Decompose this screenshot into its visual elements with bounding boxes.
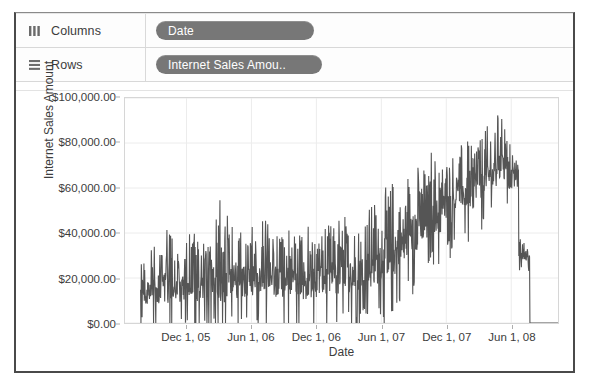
y-axis-tick-label: $60,000.00 xyxy=(58,182,116,194)
y-axis-tick-mark xyxy=(116,142,120,143)
y-axis-tick-label: $80,000.00 xyxy=(58,136,116,148)
y-axis-tick-mark xyxy=(116,97,120,98)
columns-bars-icon xyxy=(28,25,42,37)
x-axis-tick-label: Jun 1, 08 xyxy=(488,331,535,343)
rows-shelf-label-cell: Rows xyxy=(16,48,146,81)
series-line-internet-sales-amount xyxy=(141,115,558,323)
line-chart-svg xyxy=(125,98,558,323)
pill-internet-sales-amount[interactable]: Internet Sales Amou.. xyxy=(156,55,322,74)
y-axis-tick-mark xyxy=(116,233,120,234)
columns-shelf-dropzone[interactable]: Date xyxy=(146,14,573,47)
x-axis-tick-mark xyxy=(512,325,513,329)
x-axis-ticks: Dec 1, 05Jun 1, 06Dec 1, 06Jun 1, 07Dec … xyxy=(124,325,559,343)
rows-shelf[interactable]: Rows Internet Sales Amou.. xyxy=(16,48,573,82)
y-axis-tick-mark xyxy=(116,278,120,279)
x-axis-tick-label: Jun 1, 07 xyxy=(358,331,405,343)
rows-shelf-dropzone[interactable]: Internet Sales Amou.. xyxy=(146,48,573,81)
columns-shelf-title: Columns xyxy=(51,24,101,38)
x-axis-tick-label: Dec 1, 06 xyxy=(292,331,341,343)
x-axis-tick-mark xyxy=(447,325,448,329)
worksheet-frame: Columns Date Rows Internet Sales Amou.. xyxy=(14,12,575,373)
shelf-area: Columns Date Rows Internet Sales Amou.. xyxy=(16,13,573,91)
y-axis-ticks: $100,000.00$80,000.00$60,000.00$40,000.0… xyxy=(38,91,120,371)
x-axis-tick-mark xyxy=(186,325,187,329)
x-axis-tick-label: Dec 1, 05 xyxy=(161,331,210,343)
pill-date[interactable]: Date xyxy=(156,21,314,40)
plot-area[interactable] xyxy=(124,97,559,324)
y-axis-tick-mark xyxy=(116,324,120,325)
y-axis-tick-label: $20,000.00 xyxy=(58,273,116,285)
columns-shelf-label-cell: Columns xyxy=(16,14,146,47)
x-axis-tick-label: Jun 1, 06 xyxy=(227,331,274,343)
shelf-divider xyxy=(16,82,573,91)
y-axis-tick-label: $0.00 xyxy=(87,318,116,330)
x-axis-tick-mark xyxy=(251,325,252,329)
columns-shelf[interactable]: Columns Date xyxy=(16,13,573,48)
x-axis-tick-label: Dec 1, 07 xyxy=(422,331,471,343)
rows-lines-icon xyxy=(28,59,42,71)
x-axis-tick-mark xyxy=(316,325,317,329)
y-axis-tick-mark xyxy=(116,187,120,188)
x-axis-tick-mark xyxy=(382,325,383,329)
x-axis-title: Date xyxy=(124,345,559,359)
chart-region: Internet Sales Amount $100,000.00$80,000… xyxy=(16,91,573,371)
y-axis-tick-label: $100,000.00 xyxy=(52,91,116,103)
y-axis-tick-label: $40,000.00 xyxy=(58,227,116,239)
x-axis-title-text: Date xyxy=(329,345,354,359)
